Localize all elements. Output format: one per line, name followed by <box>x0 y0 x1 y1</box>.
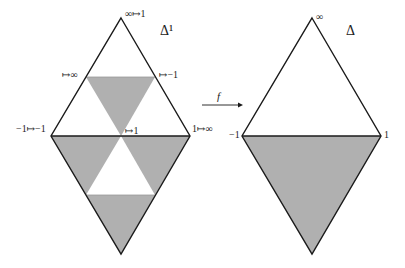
left-diamond <box>51 18 190 254</box>
arrow-head-icon <box>238 103 243 108</box>
left-diagram-title: Δ¹ <box>160 24 173 38</box>
left-bottom-shaded-triangle <box>86 195 155 254</box>
left-top-vertex-label: ∞↦1 <box>125 9 146 19</box>
left-left-vertex-label: −1↦−1 <box>16 124 46 134</box>
left-lower-left-shaded-triangle <box>51 136 121 195</box>
right-diagram-title: Δ <box>346 24 355 38</box>
right-left-vertex-label: −1 <box>229 130 240 140</box>
left-upper-right-mid-label: ↦−1 <box>159 70 178 80</box>
arrow-label: f <box>217 91 220 102</box>
left-upper-left-mid-label: ↦∞ <box>62 70 78 80</box>
left-upper-shaded-triangle <box>86 77 155 136</box>
map-arrow <box>202 103 243 108</box>
diagram-canvas <box>0 0 405 268</box>
right-lower-shaded-triangle <box>242 136 381 254</box>
left-center-label: ↦1 <box>125 126 138 136</box>
right-right-vertex-label: 1 <box>384 130 389 140</box>
left-lower-right-shaded-triangle <box>121 136 190 195</box>
right-top-vertex-label: ∞ <box>316 12 323 22</box>
right-diamond <box>242 18 381 254</box>
left-right-vertex-label: 1↦∞ <box>192 124 213 134</box>
